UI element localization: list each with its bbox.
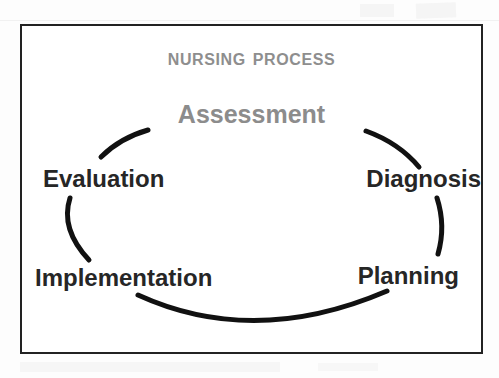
arc-implementation-to-evaluation — [67, 198, 89, 260]
scan-artifact — [360, 4, 394, 17]
node-label-assessment: Assessment — [22, 102, 481, 127]
scan-artifact — [0, 20, 499, 21]
scan-artifact — [20, 362, 280, 372]
arc-planning-to-implementation — [138, 291, 387, 321]
node-label-planning: Planning — [358, 264, 459, 288]
scan-artifact — [318, 363, 378, 371]
arc-assessment-to-diagnosis — [366, 131, 419, 167]
node-label-diagnosis: Diagnosis — [366, 167, 481, 191]
diagram-page: Nursing Process Assessment Diagnosis Pla… — [0, 0, 499, 378]
node-label-implementation: Implementation — [35, 266, 212, 290]
diagram-frame: Nursing Process Assessment Diagnosis Pla… — [20, 24, 483, 354]
arc-diagnosis-to-planning — [437, 198, 442, 254]
node-label-evaluation: Evaluation — [43, 167, 164, 191]
arc-evaluation-to-assessment — [101, 130, 148, 157]
scan-artifact — [416, 2, 456, 18]
